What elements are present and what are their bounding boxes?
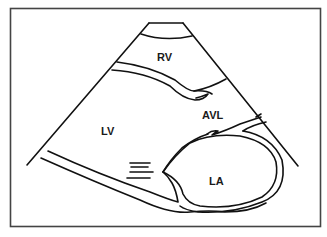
mitral-valve-lines — [127, 163, 153, 178]
label-la: LA — [209, 175, 224, 187]
diagram-frame: RV LV AVL LA — [0, 0, 327, 237]
sector-outline — [27, 23, 298, 166]
rv-anterior-wall — [141, 34, 192, 39]
posterior-wall — [41, 151, 266, 212]
septum — [112, 62, 226, 100]
label-rv: RV — [157, 51, 173, 63]
label-lv: LV — [101, 125, 115, 137]
echo-diagram: RV LV AVL LA — [0, 0, 327, 237]
left-atrium-wall — [163, 131, 283, 212]
label-avl: AVL — [202, 109, 223, 121]
